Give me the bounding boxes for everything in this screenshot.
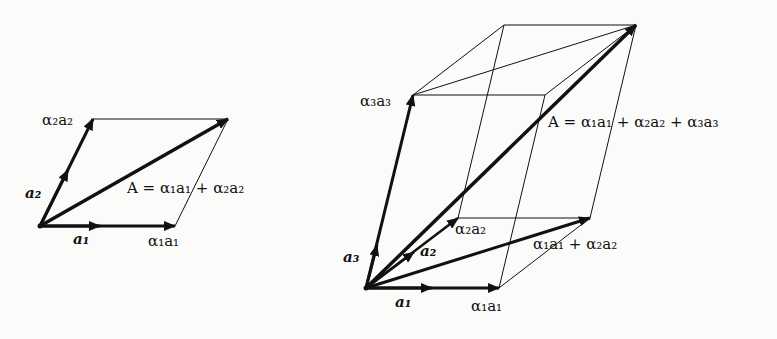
label-alpha1-a1: α₁a₁ bbox=[148, 234, 179, 249]
label-a2: a₂ bbox=[25, 186, 41, 201]
label-alpha2-a2: α₂a₂ bbox=[455, 222, 486, 237]
label-a3: a₃ bbox=[343, 250, 359, 265]
label-alpha1-a1: α₁a₁ bbox=[471, 299, 502, 314]
diagram-canvas bbox=[0, 0, 777, 339]
label-a1: a₁ bbox=[73, 232, 89, 247]
label-sum12: α₁a₁ + α₂a₂ bbox=[533, 237, 617, 252]
edge-front-right bbox=[499, 95, 545, 288]
edge-back-left bbox=[458, 25, 504, 218]
label-a1: a₁ bbox=[395, 295, 411, 310]
label-alpha3-a3: α₃a₃ bbox=[360, 94, 391, 109]
label-a2: a₂ bbox=[420, 244, 436, 259]
edge-bottom-right bbox=[499, 218, 590, 288]
plane-figure bbox=[38, 119, 229, 229]
label-A-eq: A = α₁a₁ + α₂a₂ + α₃a₃ bbox=[548, 115, 718, 130]
label-A-eq: A = α₁a₁ + α₂a₂ bbox=[127, 181, 244, 196]
label-alpha2-a2: α₂a₂ bbox=[42, 113, 73, 128]
